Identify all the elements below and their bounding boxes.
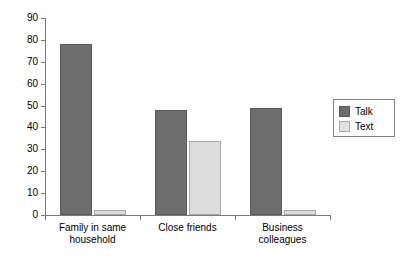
plot-area xyxy=(45,18,330,215)
y-axis-tick-label: 80 xyxy=(14,35,38,45)
bar-talk-1 xyxy=(155,110,187,215)
x-axis-category-label: Family in samehousehold xyxy=(45,222,140,246)
y-axis-tick-label: 90 xyxy=(14,13,38,23)
x-axis-line xyxy=(45,215,331,216)
legend-label: Text xyxy=(355,121,373,132)
x-axis-tick xyxy=(140,215,141,220)
bar-text-1 xyxy=(189,141,221,215)
chart-legend: TalkText xyxy=(333,99,395,137)
y-axis-tick-label: 10 xyxy=(14,188,38,198)
x-axis-category-label: Close friends xyxy=(140,222,235,234)
bar-talk-0 xyxy=(60,44,92,215)
legend-swatch-text-icon xyxy=(339,121,350,132)
x-axis-tick xyxy=(235,215,236,220)
y-axis-tick-label: 60 xyxy=(14,79,38,89)
y-axis-tick-label: 70 xyxy=(14,57,38,67)
category-label-line: household xyxy=(45,234,140,246)
bar-text-2 xyxy=(284,210,316,215)
y-axis-tick-label: 20 xyxy=(14,166,38,176)
bar-chart: 0102030405060708090 Family in samehouseh… xyxy=(0,0,405,260)
category-label-line: colleagues xyxy=(235,234,330,246)
legend-item-talk[interactable]: Talk xyxy=(339,104,394,119)
category-label-line: Business xyxy=(235,222,330,234)
x-axis-tick xyxy=(45,215,46,220)
legend-swatch-talk-icon xyxy=(339,106,350,117)
category-label-line: Close friends xyxy=(140,222,235,234)
x-axis-tick xyxy=(330,215,331,220)
bar-text-0 xyxy=(94,210,126,215)
legend-label: Talk xyxy=(355,106,373,117)
y-axis-tick-label: 30 xyxy=(14,144,38,154)
legend-item-text[interactable]: Text xyxy=(339,119,394,134)
y-axis-tick-label: 50 xyxy=(14,101,38,111)
category-label-line: Family in same xyxy=(45,222,140,234)
x-axis-category-label: Businesscolleagues xyxy=(235,222,330,246)
y-axis-tick-label: 40 xyxy=(14,122,38,132)
y-axis-tick-label: 0 xyxy=(14,210,38,220)
bar-talk-2 xyxy=(250,108,282,215)
